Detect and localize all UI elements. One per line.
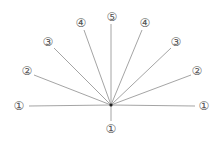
label-left-2: ② (22, 64, 33, 78)
ray-right-3 (111, 48, 171, 105)
ray-right-2 (111, 75, 191, 105)
label-left-3: ③ (43, 35, 54, 49)
label-right-3: ③ (171, 35, 182, 49)
center-point (109, 103, 112, 106)
ray-labels: ①②③④⑤④③②①① (14, 10, 210, 136)
label-top-5: ⑤ (107, 10, 118, 24)
ray-right-4 (111, 30, 142, 105)
ray-left-2 (34, 75, 111, 105)
label-right-1: ① (199, 99, 210, 113)
ray-right-1 (111, 105, 195, 106)
label-left-4: ④ (76, 16, 87, 30)
label-left-1: ① (14, 99, 25, 113)
ray-left-3 (54, 48, 111, 105)
label-right-2: ② (192, 64, 203, 78)
fan-ray-diagram: ①②③④⑤④③②①① (0, 0, 222, 146)
ray-left-1 (29, 105, 111, 106)
label-bottom-1: ① (106, 122, 117, 136)
label-right-4: ④ (140, 16, 151, 30)
ray-left-4 (84, 30, 111, 105)
